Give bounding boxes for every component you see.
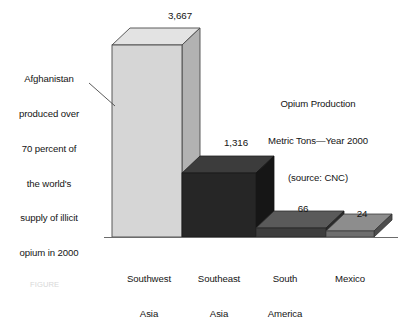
bar-mexico-front <box>326 231 374 237</box>
annotation-line-2: produced over <box>4 108 94 120</box>
annotation-line-6: opium in 2000 <box>4 247 94 259</box>
annotation-line-5: supply of illicit <box>4 212 94 224</box>
figure-caption: FIGURE <box>30 279 390 291</box>
bar-south-america-front <box>256 228 326 237</box>
bar-southwest-asia-front <box>112 45 182 237</box>
annotation-line-3: 70 percent of <box>4 143 94 155</box>
annotation-line-1: Afghanistan <box>4 73 94 85</box>
value-label-southwest-asia: 3,667 <box>140 10 220 22</box>
afghanistan-annotation: Afghanistan produced over 70 percent of … <box>4 50 94 282</box>
value-label-mexico: 24 <box>322 208 402 220</box>
annotation-line-4: the world's <box>4 178 94 190</box>
chart-title: Opium Production <box>238 98 398 110</box>
value-label-southeast-asia: 1,316 <box>196 137 276 149</box>
x-label-south-america-line2: America <box>243 308 327 320</box>
chart-source: (source: CNC) <box>238 172 398 184</box>
